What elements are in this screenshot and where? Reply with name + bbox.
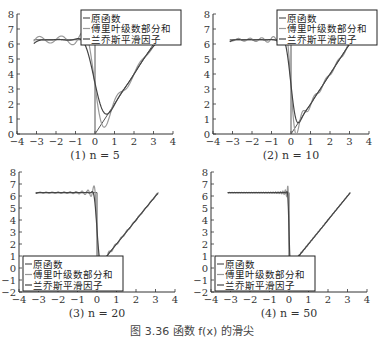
x-tick-label: 3 [150,136,156,147]
y-tick-label: 3 [8,84,14,95]
x-tick-label: −1 [264,136,279,147]
y-tick-label: 6 [202,191,208,202]
y-tick-label: 0 [204,129,210,140]
x-tick-label: 3 [346,136,352,147]
x-tick-label: −3 [31,294,46,305]
x-tick-label: 0 [288,136,294,147]
x-tick-label: 2 [131,136,137,147]
x-tick-label: 3 [344,294,350,305]
x-tick-label: 2 [133,294,139,305]
x-tick-label: −2 [49,136,64,147]
subplot-2: −4−3−2−101234012345678原函数傅里叶级数部分和兰乔斯平滑因子… [204,9,377,163]
x-tick-label: 0 [94,294,100,305]
x-tick-label: 1 [305,294,311,305]
y-tick-label: 3 [10,227,16,238]
legend-label: 兰乔斯平滑因子 [91,34,161,45]
y-tick-label: 3 [204,84,210,95]
y-tick-label: 2 [10,239,16,250]
x-tick-label: 4 [364,294,370,305]
x-tick-label: −1 [70,294,85,305]
y-tick-label: 5 [204,54,210,65]
legend-label: 傅里叶级数部分和 [287,23,367,34]
legend: 原函数傅里叶级数部分和兰乔斯平滑因子 [81,10,181,45]
x-tick-label: −2 [51,294,66,305]
y-tick-label: 4 [10,215,16,226]
x-tick-label: 4 [170,136,176,147]
legend-label: 原函数 [33,259,63,270]
y-tick-label: 8 [202,167,208,178]
y-tick-label: 2 [202,239,208,250]
y-tick-label: 5 [202,203,208,214]
y-tick-label: −2 [1,287,16,298]
subplot-caption: (1) n = 5 [70,149,119,162]
legend-label: 傅里叶级数部分和 [91,23,171,34]
y-tick-label: −1 [1,275,16,286]
y-tick-label: 8 [10,167,16,178]
y-tick-label: 3 [202,227,208,238]
y-tick-label: 2 [8,99,14,110]
x-tick-label: 2 [327,136,333,147]
legend: 原函数傅里叶级数部分和兰乔斯平滑因子 [215,256,315,291]
legend-label: 傅里叶级数部分和 [225,269,305,280]
y-tick-label: 1 [202,251,208,262]
legend: 原函数傅里叶级数部分和兰乔斯平滑因子 [277,10,377,45]
legend-label: 兰乔斯平滑因子 [33,280,103,291]
y-tick-label: 8 [204,9,210,20]
y-tick-label: 2 [204,99,210,110]
y-tick-label: 0 [10,263,16,274]
y-tick-label: 1 [8,114,14,125]
subplot-caption: (2) n = 10 [263,149,319,162]
y-tick-label: 4 [204,69,210,80]
legend-label: 兰乔斯平滑因子 [287,34,357,45]
legend-label: 原函数 [91,13,121,24]
subplot-4: −4−3−2−101234−2−1012345678原函数傅里叶级数部分和兰乔斯… [193,167,370,321]
x-tick-label: 0 [92,136,98,147]
y-tick-label: 1 [204,114,210,125]
y-tick-label: 8 [8,9,14,20]
x-tick-label: −3 [29,136,44,147]
y-tick-label: 0 [8,129,14,140]
x-tick-label: −2 [245,136,260,147]
y-tick-label: −2 [193,287,208,298]
x-tick-label: 4 [366,136,372,147]
subplot-1: −4−3−2−101234012345678原函数傅里叶级数部分和兰乔斯平滑因子… [8,9,181,163]
legend-label: 兰乔斯平滑因子 [225,280,295,291]
legend-label: 傅里叶级数部分和 [33,269,113,280]
figure-caption: 图 3.36 函数 f(x) 的滑尖 [0,322,384,338]
y-tick-label: 7 [8,24,14,35]
y-tick-label: 6 [8,39,14,50]
x-tick-label: 2 [325,294,331,305]
legend-label: 原函数 [225,259,255,270]
x-tick-label: −3 [225,136,240,147]
subplot-caption: (4) n = 50 [261,307,317,320]
y-tick-label: 5 [8,54,14,65]
y-tick-label: −1 [193,275,208,286]
y-tick-label: 6 [10,191,16,202]
y-tick-label: 7 [204,24,210,35]
legend: 原函数傅里叶级数部分和兰乔斯平滑因子 [23,256,123,291]
x-tick-label: 1 [111,136,117,147]
y-tick-label: 7 [10,179,16,190]
x-tick-label: 1 [113,294,119,305]
y-tick-label: 0 [202,263,208,274]
x-tick-label: −2 [243,294,258,305]
x-tick-label: −1 [68,136,83,147]
subplot-3: −4−3−2−101234−2−1012345678原函数傅里叶级数部分和兰乔斯… [1,167,178,321]
y-tick-label: 4 [202,215,208,226]
y-tick-label: 7 [202,179,208,190]
y-tick-label: 1 [10,251,16,262]
x-tick-label: −1 [262,294,277,305]
x-tick-label: 1 [307,136,313,147]
y-tick-label: 5 [10,203,16,214]
x-tick-label: 0 [286,294,292,305]
x-tick-label: 3 [152,294,158,305]
x-tick-label: 4 [172,294,178,305]
y-tick-label: 4 [8,69,14,80]
y-tick-label: 6 [204,39,210,50]
subplot-caption: (3) n = 20 [69,307,125,320]
legend-label: 原函数 [287,13,317,24]
x-tick-label: −3 [223,294,238,305]
